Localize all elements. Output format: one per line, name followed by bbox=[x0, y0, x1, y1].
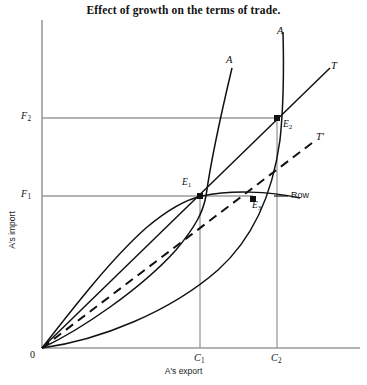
curve-a-original bbox=[42, 68, 232, 348]
origin-label: 0 bbox=[30, 349, 35, 360]
x-tick-C2-base: C bbox=[271, 352, 278, 363]
curve-label-t-prime-mark: ' bbox=[322, 131, 324, 142]
point-label-E3-sub: 3 bbox=[258, 204, 262, 212]
y-tick-F2-sub: 2 bbox=[27, 115, 31, 123]
x-axis-label: A's export bbox=[0, 366, 367, 376]
x-tick-C2-sub: 2 bbox=[278, 357, 282, 365]
curve-label-t: T bbox=[331, 60, 337, 71]
y-tick-F1-sub: 1 bbox=[27, 193, 31, 201]
point-label-E3: E3 bbox=[252, 200, 261, 212]
point-label-E2-sub: 2 bbox=[289, 123, 293, 131]
point-marker-E1 bbox=[197, 193, 203, 199]
line-terms-of-trade-t bbox=[42, 68, 330, 348]
figure-container: Effect of growth on the terms of trade. … bbox=[0, 0, 367, 385]
line-terms-of-trade-t-prime bbox=[42, 143, 312, 348]
point-label-E2: E2 bbox=[283, 119, 292, 131]
curve-label-t-prime: T' bbox=[316, 131, 324, 142]
point-marker-E2 bbox=[274, 115, 280, 121]
curve-row bbox=[42, 192, 300, 348]
point-label-E1: E1 bbox=[182, 177, 191, 189]
x-tick-C1-sub: 1 bbox=[201, 357, 205, 365]
y-tick-F1: F1 bbox=[21, 188, 31, 201]
x-tick-C2: C2 bbox=[271, 352, 282, 365]
x-tick-C1-base: C bbox=[194, 352, 201, 363]
curve-a-grown bbox=[42, 32, 283, 348]
curve-label-a-grown: A bbox=[277, 25, 283, 36]
y-tick-F2: F2 bbox=[21, 110, 31, 123]
plot-canvas bbox=[0, 0, 367, 385]
annotation-row: Row bbox=[291, 190, 309, 200]
x-tick-C1: C1 bbox=[194, 352, 205, 365]
point-label-E1-sub: 1 bbox=[188, 181, 192, 189]
curve-label-a-original: A bbox=[226, 54, 232, 65]
y-axis-label: A's import bbox=[7, 200, 17, 260]
